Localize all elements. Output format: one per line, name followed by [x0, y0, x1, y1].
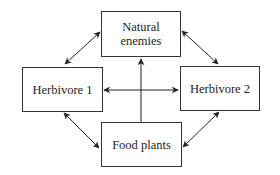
- node-label-herbivore-2: Herbivore 2: [190, 82, 250, 96]
- interaction-diagram: Natural enemies Herbivore 1 Herbivore 2 …: [0, 0, 280, 175]
- edge-food-plants-herbivore2: [183, 112, 219, 147]
- edge-natural-enemies-herbivore2: [182, 31, 218, 64]
- node-label-herbivore-1: Herbivore 1: [32, 83, 92, 97]
- node-herbivore-2: Herbivore 2: [180, 66, 260, 111]
- node-food-plants: Food plants: [101, 122, 182, 167]
- node-herbivore-1: Herbivore 1: [22, 67, 103, 112]
- node-label-natural-enemies: Natural enemies: [121, 20, 162, 48]
- edge-herbivore1-natural-enemies: [65, 32, 100, 64]
- node-natural-enemies: Natural enemies: [101, 11, 181, 57]
- node-label-food-plants: Food plants: [112, 138, 171, 152]
- edge-herbivore1-food-plants: [64, 113, 99, 148]
